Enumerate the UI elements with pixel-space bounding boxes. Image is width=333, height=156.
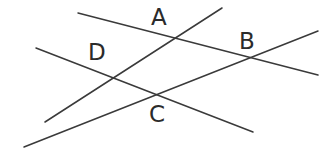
vertex-label-d: D <box>88 41 106 64</box>
geometry-figure: A B C D <box>0 0 333 156</box>
line-through-D-and-A <box>45 8 222 122</box>
vertex-label-c: C <box>149 103 165 126</box>
vertex-label-a: A <box>151 6 167 29</box>
line-through-D-and-C <box>36 48 253 132</box>
vertex-label-b: B <box>239 30 255 53</box>
line-through-C-and-B <box>24 31 318 147</box>
line-through-A-and-B <box>78 13 318 75</box>
